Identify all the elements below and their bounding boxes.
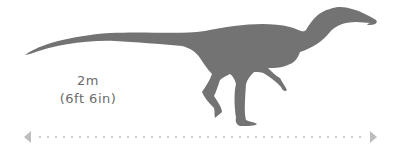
size-metric: 2m	[50, 72, 126, 90]
size-label: 2m (6ft 6in)	[50, 72, 126, 108]
scale-bar	[0, 128, 396, 144]
arrow-left-icon	[24, 131, 31, 143]
scale-dots	[39, 136, 361, 138]
arrow-right-icon	[370, 131, 377, 143]
size-imperial: (6ft 6in)	[50, 90, 126, 108]
